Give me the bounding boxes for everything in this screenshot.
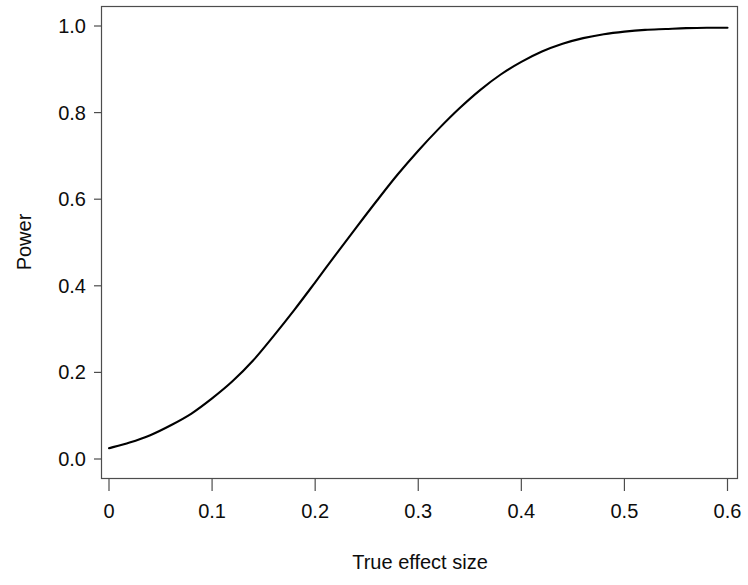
x-tick-label: 0.4	[507, 501, 535, 521]
x-tick-label: 0.6	[714, 501, 742, 521]
y-tick-label: 1.0	[58, 16, 86, 36]
y-axis-title: Power	[13, 214, 36, 271]
y-tick-label: 0.8	[58, 103, 86, 123]
x-tick-label: 0.2	[301, 501, 329, 521]
x-tick-label: 0	[103, 501, 114, 521]
x-axis-title: True effect size	[352, 551, 488, 574]
y-tick-label: 0.0	[58, 449, 86, 469]
power-curve-figure: 0.00.20.40.60.81.0 00.10.20.30.40.50.6 T…	[0, 0, 748, 585]
y-tick-label: 0.6	[58, 189, 86, 209]
x-tick-label: 0.5	[611, 501, 639, 521]
plot-area-svg	[0, 0, 748, 585]
x-axis-tick-marks	[109, 479, 728, 492]
x-tick-label: 0.3	[404, 501, 432, 521]
x-tick-label: 0.1	[198, 501, 226, 521]
y-tick-label: 0.4	[58, 276, 86, 296]
y-axis-tick-marks	[94, 26, 102, 459]
y-tick-label: 0.2	[58, 362, 86, 382]
plot-box-frame	[102, 7, 738, 479]
